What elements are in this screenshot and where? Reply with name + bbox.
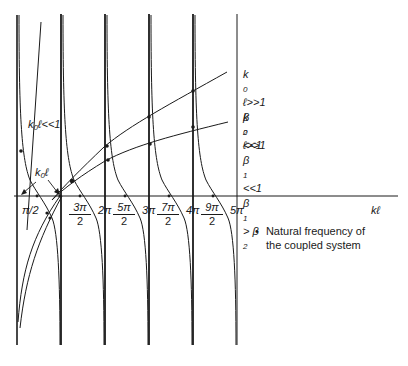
label-small-k0l: k0ℓ<<1	[28, 118, 60, 134]
legend: • Natural frequency of	[255, 225, 365, 237]
branch-4	[151, 15, 192, 345]
branch-3	[107, 15, 148, 345]
tick-4pi: 4π	[186, 204, 200, 216]
tick-5pi: 5π	[230, 204, 244, 216]
tick-pi-over-2: π/2	[22, 204, 39, 216]
legend-line-1: Natural frequency of	[266, 225, 365, 237]
branch-2	[63, 15, 104, 345]
tick-3pi-over-2: 3π2	[69, 202, 91, 227]
label-k0l-pointer: k0ℓ	[35, 166, 49, 182]
tick-2pi: 2π	[98, 204, 112, 216]
tick-7pi-over-2: 7π2	[157, 202, 179, 227]
tick-9pi-over-2: 9π2	[201, 202, 223, 227]
line-beta2	[52, 72, 227, 200]
branch-5	[195, 15, 236, 345]
legend-bullet: •	[255, 225, 259, 237]
legend-line-2: the coupled system	[266, 239, 361, 251]
tick-5pi-over-2: 5π2	[113, 202, 135, 227]
tick-3pi: 3π	[142, 204, 156, 216]
x-axis-label: kℓ	[371, 204, 380, 216]
plot-canvas	[0, 0, 408, 366]
